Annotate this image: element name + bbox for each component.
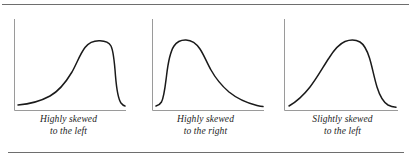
caption-line-1: Highly skewed bbox=[0, 114, 137, 126]
panel-highly-skewed-left: Highly skewed to the left bbox=[0, 14, 137, 149]
caption-line-1: Highly skewed bbox=[137, 114, 274, 126]
curve-plot-2 bbox=[137, 14, 274, 114]
curve-plot-1 bbox=[0, 14, 137, 114]
panel-slightly-skewed-left: Slightly skewed to the left bbox=[274, 14, 411, 149]
caption-line-1: Slightly skewed bbox=[274, 114, 411, 126]
top-horizontal-rule bbox=[2, 4, 409, 5]
panel-caption-3: Slightly skewed to the left bbox=[274, 114, 411, 137]
panel-highly-skewed-right: Highly skewed to the right bbox=[137, 14, 274, 149]
panel-caption-1: Highly skewed to the left bbox=[0, 114, 137, 137]
skewness-figure: Highly skewed to the left Highly skewed … bbox=[0, 0, 411, 159]
curve-plot-3 bbox=[274, 14, 411, 114]
bottom-horizontal-rule bbox=[8, 152, 404, 153]
caption-line-2: to the left bbox=[274, 126, 411, 138]
axes-1 bbox=[15, 19, 127, 111]
caption-line-2: to the left bbox=[0, 126, 137, 138]
density-curve-3 bbox=[289, 40, 396, 107]
panel-caption-2: Highly skewed to the right bbox=[137, 114, 274, 137]
caption-line-2: to the right bbox=[137, 126, 274, 138]
density-curve-2 bbox=[156, 40, 263, 107]
density-curve-1 bbox=[18, 41, 125, 106]
